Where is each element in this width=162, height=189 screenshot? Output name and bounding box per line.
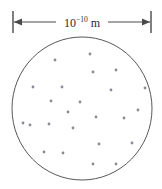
particle-dot	[72, 127, 75, 130]
dimension-scale-bar: 10−10 m	[13, 11, 151, 33]
particle-dot	[61, 86, 64, 89]
particle-dot	[115, 69, 118, 72]
scale-label: 10−10 m	[64, 15, 101, 30]
particle-dot	[43, 151, 46, 154]
particle-dot	[89, 53, 92, 56]
particle-dot	[48, 123, 51, 126]
particle-dot	[67, 111, 70, 114]
diagram-canvas: 10−10 m	[0, 0, 162, 189]
arrow-head-right-icon	[142, 19, 150, 26]
particle-dot	[92, 163, 95, 166]
particle-dot	[137, 109, 140, 112]
particle-dot	[54, 59, 57, 62]
arrow-head-left-icon	[14, 19, 22, 26]
particle-dot	[98, 143, 101, 146]
atom-boundary-circle	[12, 37, 152, 180]
particle-dot	[110, 89, 113, 92]
particle-layer	[22, 53, 147, 166]
particle-dot	[79, 101, 82, 104]
particle-dot	[29, 124, 32, 127]
particle-dot	[144, 87, 147, 90]
particle-dot	[95, 116, 98, 119]
scale-label-exponent: −10	[76, 15, 88, 24]
particle-dot	[50, 100, 53, 103]
particle-dot	[123, 117, 126, 120]
particle-dot	[92, 71, 95, 74]
particle-dot	[115, 163, 118, 166]
particle-dot	[32, 86, 35, 89]
scale-label-mantissa: 10	[64, 16, 76, 30]
scale-label-unit: m	[91, 16, 101, 30]
particle-dot	[22, 122, 25, 125]
particle-dot	[62, 152, 65, 155]
atom-scale-diagram: 10−10 m	[0, 0, 162, 189]
particle-dot	[131, 142, 134, 145]
